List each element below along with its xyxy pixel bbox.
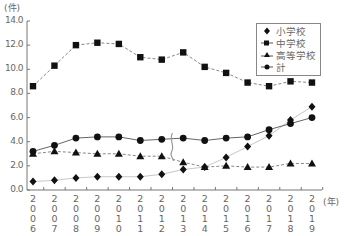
- y-tick-label: 6.0: [0, 112, 23, 122]
- square-marker-icon: [260, 37, 274, 49]
- x-axis-unit: (年): [323, 195, 339, 208]
- triangle-marker-icon: [260, 49, 274, 61]
- legend-item-high-school: 高等学校: [260, 49, 316, 61]
- x-tick-label: 2008: [71, 194, 81, 234]
- x-tick-label: 2016: [243, 194, 253, 234]
- x-tick-label: 2015: [221, 194, 231, 234]
- x-tick-label: 2006: [28, 194, 38, 234]
- y-tick-label: 4.0: [0, 136, 23, 146]
- x-tick-label: 2012: [157, 194, 167, 234]
- y-tick-label: 10.0: [0, 63, 23, 73]
- line-chart: (件) (年) 0.02.04.06.08.010.012.014.0 2006…: [0, 0, 344, 236]
- x-tick-label: 2007: [49, 194, 59, 234]
- y-tick-label: 14.0: [0, 15, 23, 25]
- x-tick-label: 2017: [264, 194, 274, 234]
- circle-marker-icon: [260, 61, 274, 73]
- legend: 小学校 中学校 高等学校 計: [256, 23, 321, 76]
- x-tick-label: 2018: [286, 194, 296, 234]
- x-tick-label: 2014: [200, 194, 210, 234]
- legend-item-total: 計: [260, 61, 286, 73]
- x-tick-label: 2011: [135, 194, 145, 234]
- x-tick-label: 2010: [114, 194, 124, 234]
- y-tick-label: 2.0: [0, 160, 23, 170]
- diamond-marker-icon: [260, 25, 274, 37]
- y-tick-label: 12.0: [0, 39, 23, 49]
- axis-break-marker: [171, 133, 174, 161]
- x-tick-label: 2009: [92, 194, 102, 234]
- y-tick-label: 8.0: [0, 87, 23, 97]
- x-tick-label: 2013: [178, 194, 188, 234]
- y-tick-label: 0.0: [0, 184, 23, 194]
- x-tick-label: 2019: [307, 194, 317, 234]
- y-axis-unit: (件): [4, 1, 20, 14]
